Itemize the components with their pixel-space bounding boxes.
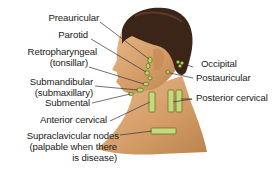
- label-postauricular: Postauricular: [196, 73, 251, 84]
- label-palpable: (palpable when there: [29, 142, 117, 153]
- label-tonsillar: (tonsillar): [50, 58, 88, 69]
- label-is-disease: is disease): [72, 153, 117, 164]
- occipital-node-icon: [176, 60, 179, 63]
- occipital-node-icon: [178, 64, 181, 67]
- postauricular-node-icon: [166, 70, 170, 74]
- occipital-node-icon: [180, 61, 183, 64]
- label-submental: Submental: [45, 98, 90, 109]
- lymph-node-diagram: Preauricular Parotid Retropharyngeal (to…: [0, 0, 280, 175]
- label-preauricular: Preauricular: [48, 13, 99, 24]
- supraclavicular-node-icon: [151, 128, 176, 134]
- label-supraclavicular: Supraclavicular nodes: [27, 131, 119, 142]
- label-parotid: Parotid: [58, 30, 88, 41]
- parotid-node-icon: [148, 76, 152, 80]
- preauricular-node-icon: [146, 63, 150, 68]
- label-submandibular: Submandibular: [30, 77, 93, 88]
- label-occipital: Occipital: [201, 59, 237, 70]
- posterior-cervical-node-icon: [168, 90, 174, 112]
- label-retropharyngeal: Retropharyngeal: [28, 47, 97, 58]
- label-posterior-cervical: Posterior cervical: [196, 93, 268, 104]
- preauricular-node-icon: [148, 57, 152, 63]
- label-anterior-cervical: Anterior cervical: [40, 115, 107, 126]
